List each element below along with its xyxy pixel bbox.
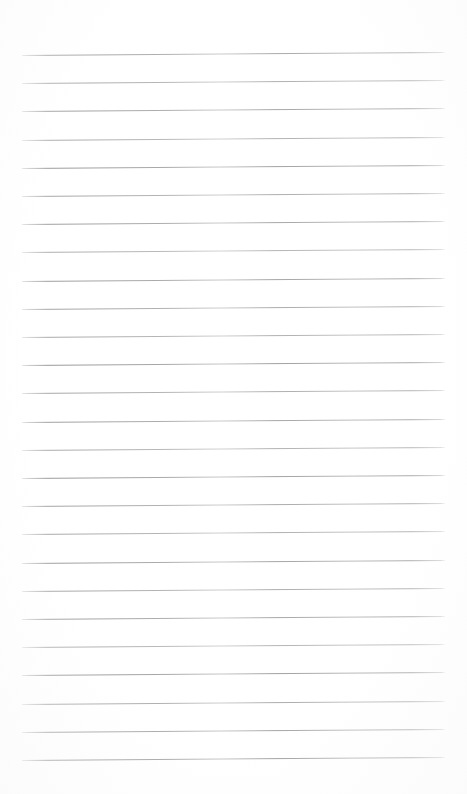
ruled-line[interactable] [22, 616, 445, 620]
ruled-line[interactable] [22, 588, 445, 592]
lined-paper-page [0, 0, 467, 794]
ruled-line[interactable] [22, 193, 445, 197]
ruled-line[interactable] [22, 729, 445, 733]
ruled-line[interactable] [22, 362, 445, 366]
ruled-line[interactable] [22, 672, 445, 676]
ruled-lines-area[interactable] [0, 0, 467, 794]
ruled-line[interactable] [22, 700, 445, 704]
ruled-line[interactable] [22, 334, 445, 338]
ruled-line[interactable] [22, 277, 445, 281]
ruled-line[interactable] [22, 757, 445, 761]
ruled-line[interactable] [22, 418, 445, 422]
ruled-line[interactable] [22, 447, 445, 451]
ruled-line[interactable] [22, 221, 445, 225]
ruled-line[interactable] [22, 306, 445, 310]
ruled-line[interactable] [22, 80, 445, 84]
ruled-line[interactable] [22, 108, 445, 112]
ruled-line[interactable] [22, 559, 445, 563]
ruled-line[interactable] [22, 136, 445, 140]
ruled-line[interactable] [22, 475, 445, 479]
ruled-line[interactable] [22, 52, 445, 56]
ruled-line[interactable] [22, 531, 445, 535]
ruled-line[interactable] [22, 249, 445, 253]
ruled-line[interactable] [22, 165, 445, 169]
ruled-line[interactable] [22, 503, 445, 507]
ruled-line[interactable] [22, 644, 445, 648]
ruled-line[interactable] [22, 390, 445, 394]
